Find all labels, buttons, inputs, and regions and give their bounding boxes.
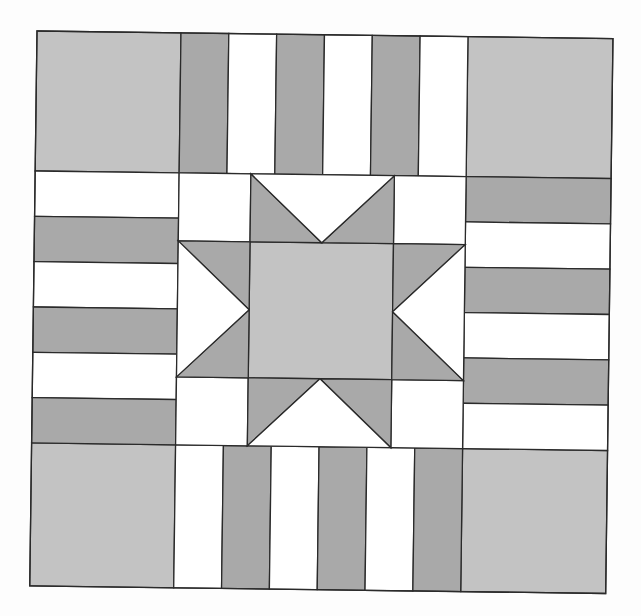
left-rail-stripe <box>32 398 177 445</box>
star-corner-top-left <box>178 173 251 242</box>
corner-square-top-right <box>466 37 613 179</box>
right-rail-stripe <box>464 313 610 360</box>
bottom-rail-stripe <box>365 447 415 591</box>
top-rail-stripe <box>370 35 420 176</box>
corner-square-bottom-left <box>30 443 176 588</box>
quilt-block-diagram <box>0 0 641 616</box>
right-rail-stripe <box>463 403 609 450</box>
right-rail-stripe <box>465 222 611 269</box>
star-center-square <box>248 242 393 380</box>
bottom-rail-stripe <box>269 446 319 590</box>
top-rail-stripe <box>179 33 229 174</box>
left-rail-stripe <box>34 216 179 263</box>
right-rail-stripe <box>463 358 609 405</box>
star-corner-bottom-right <box>391 380 464 449</box>
left-rail-stripe <box>35 171 180 218</box>
corner-square-bottom-right <box>461 449 608 594</box>
left-rail-stripe <box>33 262 178 309</box>
top-rail-stripe <box>323 35 373 176</box>
left-rail-stripe <box>33 307 178 354</box>
right-rail-stripe <box>464 267 610 314</box>
left-rail-stripe <box>32 352 177 399</box>
bottom-rail-stripe <box>222 445 272 589</box>
corner-square-top-left <box>35 31 181 173</box>
quilt-block <box>30 31 613 593</box>
right-rail-stripe <box>466 177 612 224</box>
bottom-rail-stripe <box>413 448 463 592</box>
bottom-rail-stripe <box>317 447 367 591</box>
top-rail-stripe <box>275 34 325 175</box>
bottom-rail-stripe <box>174 445 224 589</box>
star-corner-top-right <box>393 176 466 245</box>
top-rail-stripe <box>227 34 277 175</box>
star-corner-bottom-left <box>176 377 249 446</box>
top-rail-stripe <box>418 36 468 177</box>
